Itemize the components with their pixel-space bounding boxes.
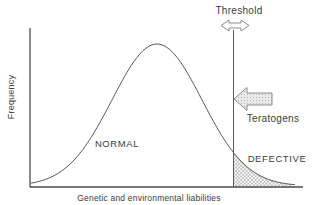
threshold-model-diagram: Threshold Teratogens NORMAL DEFECTIVE Fr… <box>0 0 314 205</box>
y-axis-label: Frequency <box>6 75 16 120</box>
teratogens-label: Teratogens <box>247 113 299 124</box>
diagram-canvas: Threshold Teratogens NORMAL DEFECTIVE Fr… <box>0 0 314 205</box>
threshold-double-arrow-icon <box>221 20 249 31</box>
x-axis-label: Genetic and environmental liabilities <box>77 193 220 203</box>
threshold-label: Threshold <box>215 5 262 16</box>
normal-region-label: NORMAL <box>95 138 139 149</box>
teratogens-left-arrow-icon <box>234 88 272 111</box>
defective-region-label: DEFECTIVE <box>248 153 307 164</box>
